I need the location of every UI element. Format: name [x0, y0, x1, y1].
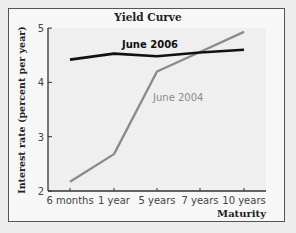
- x-axis-label: Maturity: [217, 208, 267, 219]
- series-label-june-2004: June 2004: [152, 92, 203, 103]
- x-tick-label: 7 years: [181, 195, 218, 206]
- y-tick-label: 4: [38, 77, 44, 88]
- plot-area: [48, 28, 266, 191]
- yield-curve-chart: Yield Curve 2345 6 months1 year5 years7 …: [0, 0, 296, 233]
- x-tick-label: 5 years: [138, 195, 175, 206]
- x-tick-label: 10 years: [222, 195, 265, 206]
- y-tick-label: 5: [38, 23, 44, 34]
- x-tick-label: 6 months: [46, 195, 93, 206]
- chart-title: Yield Curve: [113, 11, 182, 23]
- series-label-june-2006: June 2006: [121, 39, 178, 50]
- y-tick-label: 2: [38, 186, 44, 197]
- y-axis-label: Interest rate (percent per year): [16, 26, 27, 194]
- x-tick-label: 1 year: [98, 195, 131, 206]
- x-axis: 6 months1 year5 years7 years10 years: [46, 188, 266, 206]
- y-tick-label: 3: [38, 132, 44, 143]
